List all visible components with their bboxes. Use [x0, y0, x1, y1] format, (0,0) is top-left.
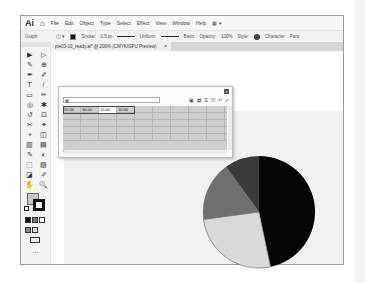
artboard-tool-icon[interactable]: ▨ [38, 160, 49, 169]
data-cell[interactable] [153, 120, 171, 127]
edit-toolbar-icon[interactable]: ··· [21, 249, 50, 256]
document-tab[interactable]: pie03-10_ready.ai* @ 200% (CMYK/GPU Prev… [51, 42, 171, 51]
curvature-tool-icon[interactable]: ✐ [38, 70, 49, 79]
data-cell[interactable] [81, 127, 99, 134]
character-link[interactable]: Character [265, 34, 285, 39]
fill-dropdown[interactable]: ◫ ▾ [56, 34, 65, 39]
default-fill-stroke-icon[interactable] [24, 206, 29, 211]
color-mode-icon[interactable] [25, 217, 31, 223]
switch-xy-icon[interactable]: ⇅ [204, 97, 208, 103]
data-cell[interactable] [99, 127, 117, 134]
data-cell[interactable] [63, 120, 81, 127]
vertical-scrollbar[interactable] [228, 106, 232, 150]
data-cell[interactable] [135, 106, 153, 113]
none-mode-icon[interactable] [39, 217, 45, 223]
perspective-grid-tool-icon[interactable]: ◫ [38, 130, 49, 139]
data-cell[interactable] [153, 127, 171, 134]
menu-type[interactable]: Type [100, 20, 111, 26]
width-tool-icon[interactable]: ✂ [24, 120, 35, 129]
data-cell[interactable] [117, 113, 135, 120]
gradient-mode-icon[interactable] [32, 217, 38, 223]
data-cell[interactable] [81, 113, 99, 120]
eraser-tool-icon[interactable]: ✐ [38, 170, 49, 179]
data-cell[interactable] [207, 106, 225, 113]
close-tab-icon[interactable]: × [164, 42, 167, 51]
menu-view[interactable]: View [155, 20, 166, 26]
lasso-tool-icon[interactable]: ⊕ [38, 60, 49, 69]
style-label[interactable]: Style: [238, 34, 249, 39]
blend-tool-icon[interactable]: ◐ [38, 150, 49, 159]
data-cell[interactable] [135, 134, 153, 141]
data-cell[interactable] [171, 113, 189, 120]
slice-tool-icon[interactable]: ◪ [24, 170, 35, 179]
data-cell[interactable] [63, 134, 81, 141]
stroke-swatch[interactable] [70, 34, 76, 40]
apply-icon[interactable]: ✓ [225, 97, 229, 103]
data-cell[interactable] [171, 134, 189, 141]
shaper-tool-icon[interactable]: ◎ [24, 100, 35, 109]
cell-entry-input[interactable]: ▦ [63, 97, 160, 103]
recolor-icon[interactable] [254, 34, 260, 40]
rotate-tool-icon[interactable]: ↺ [24, 110, 35, 119]
menu-edit[interactable]: Edit [65, 20, 74, 26]
stroke-weight-input[interactable]: 0.5 pt [101, 34, 112, 39]
data-cell[interactable] [99, 113, 117, 120]
shape-builder-tool-icon[interactable]: ⌖ [24, 130, 35, 139]
brush-label[interactable]: Basic [184, 34, 195, 39]
data-cell[interactable] [189, 127, 207, 134]
data-cell[interactable] [153, 113, 171, 120]
stroke-swatch-large[interactable] [33, 199, 45, 211]
data-cell[interactable] [63, 127, 81, 134]
data-cell[interactable] [135, 113, 153, 120]
pencil-tool-icon[interactable]: ✏ [38, 90, 49, 99]
data-cell[interactable] [171, 120, 189, 127]
direct-selection-tool-icon[interactable]: ▷ [38, 50, 49, 59]
paragraph-link[interactable]: Para [290, 34, 300, 39]
zoom-tool-icon[interactable]: 🔍 [38, 180, 49, 189]
home-icon[interactable]: ⌂ [40, 19, 45, 28]
stroke-profile-preview[interactable] [117, 36, 135, 38]
data-cell[interactable] [153, 134, 171, 141]
menu-window[interactable]: Window [172, 20, 190, 26]
rectangle-tool-icon[interactable]: ▭ [24, 90, 35, 99]
data-cell[interactable] [207, 134, 225, 141]
draw-normal-icon[interactable] [25, 227, 31, 233]
menu-effect[interactable]: Effect [137, 20, 150, 26]
data-cell[interactable] [117, 134, 135, 141]
screen-mode-icon[interactable] [30, 237, 40, 243]
menu-file[interactable]: File [51, 20, 59, 26]
symbol-sprayer-tool-icon[interactable]: ✦ [38, 120, 49, 129]
eyedropper-tool-icon[interactable]: ✎ [24, 150, 35, 159]
line-tool-icon[interactable]: / [38, 80, 49, 89]
opacity-input[interactable]: 100% [221, 34, 233, 39]
data-cell[interactable] [189, 106, 207, 113]
data-cell[interactable] [153, 106, 171, 113]
puppet-warp-tool-icon[interactable]: ✱ [38, 100, 49, 109]
draw-behind-icon[interactable] [32, 227, 38, 233]
import-data-icon[interactable]: ▣ [189, 97, 194, 103]
brush-preview[interactable] [161, 36, 179, 38]
menu-select[interactable]: Select [117, 20, 131, 26]
free-transform-tool-icon[interactable]: ⊡ [38, 110, 49, 119]
graph-tool-icon[interactable]: ⬚ [24, 160, 35, 169]
revert-icon[interactable]: ↶ [218, 97, 222, 103]
workspace-switcher[interactable]: ▦ ▾ [212, 20, 221, 26]
data-cell[interactable] [171, 127, 189, 134]
pie-slice-1[interactable] [259, 156, 315, 267]
data-cell[interactable] [81, 120, 99, 127]
data-cell[interactable] [135, 120, 153, 127]
type-tool-icon[interactable]: T [24, 80, 35, 89]
selection-tool-icon[interactable]: ▶ [24, 50, 35, 59]
cell-style-icon[interactable]: ☷ [211, 97, 215, 103]
data-cell[interactable] [189, 134, 207, 141]
pen-tool-icon[interactable]: ✒ [24, 70, 35, 79]
data-cell[interactable] [189, 120, 207, 127]
data-cell[interactable] [207, 120, 225, 127]
scroll-left-icon[interactable]: ‹ [63, 149, 64, 154]
transpose-icon[interactable]: ⇄ [197, 97, 201, 103]
mesh-tool-icon[interactable]: ▥ [24, 140, 35, 149]
data-cell[interactable] [99, 134, 117, 141]
menu-help[interactable]: Help [196, 20, 206, 26]
opacity-label[interactable]: Opacity: [200, 34, 217, 39]
gradient-tool-icon[interactable]: ▤ [38, 140, 49, 149]
